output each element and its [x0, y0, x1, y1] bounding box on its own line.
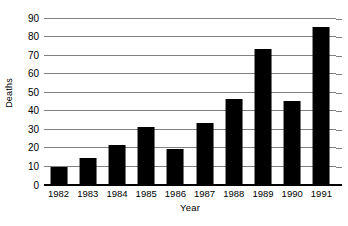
gridline-tick-stub — [336, 74, 342, 75]
bar-slot — [307, 18, 336, 184]
bar-slot — [219, 18, 248, 184]
bar-slot — [73, 18, 102, 184]
x-axis-tick-label: 1988 — [219, 187, 248, 200]
x-axis-tick-label: 1984 — [102, 187, 131, 200]
bar[interactable] — [167, 149, 184, 184]
gridline-tick-stub — [336, 37, 342, 38]
bar-slot — [248, 18, 277, 184]
bars-layer — [44, 18, 336, 184]
bar-slot — [132, 18, 161, 184]
x-axis-tick-label: 1990 — [278, 187, 307, 200]
x-axis-tick-labels: 1982198319841985198619871988198919901991 — [44, 187, 336, 201]
y-axis-tick-label: 20 — [28, 143, 39, 153]
bar-slot — [278, 18, 307, 184]
bar-slot — [161, 18, 190, 184]
gridline-tick-stub — [336, 19, 342, 20]
y-axis-tick-label: 80 — [28, 32, 39, 42]
bar[interactable] — [284, 101, 301, 184]
bar[interactable] — [79, 158, 96, 184]
gridline-tick-stub — [336, 130, 342, 131]
x-axis-tick-label: 1985 — [132, 187, 161, 200]
gridline-tick-stub — [336, 111, 342, 112]
x-axis-tick-label: 1986 — [161, 187, 190, 200]
x-axis-baseline: 0 — [44, 184, 342, 186]
gridline-tick-stub — [336, 167, 342, 168]
plot-area: 0102030405060708090 — [44, 18, 336, 184]
y-axis-tick-label: 0 — [33, 181, 39, 191]
y-axis-title-text: Deaths — [4, 78, 14, 108]
bar-chart-figure: Deaths 0102030405060708090 1982198319841… — [0, 0, 348, 226]
y-axis-tick-label: 90 — [28, 14, 39, 24]
gridline-tick-stub — [336, 56, 342, 57]
x-axis-tick-label: 1982 — [44, 187, 73, 200]
y-axis-tick-label: 30 — [28, 125, 39, 135]
bar[interactable] — [50, 167, 67, 184]
bar-slot — [102, 18, 131, 184]
y-axis-tick-label: 60 — [28, 69, 39, 79]
x-axis-title: Year — [44, 202, 336, 213]
bar[interactable] — [255, 49, 272, 184]
y-axis-title: Deaths — [0, 0, 18, 186]
y-axis-tick-label: 70 — [28, 51, 39, 61]
bar[interactable] — [225, 99, 242, 184]
bar[interactable] — [313, 27, 330, 184]
bar[interactable] — [196, 123, 213, 184]
x-axis-tick-label: 1987 — [190, 187, 219, 200]
bar-slot — [44, 18, 73, 184]
gridline-tick-stub — [336, 93, 342, 94]
gridline-tick-stub — [336, 148, 342, 149]
bar-slot — [190, 18, 219, 184]
y-axis-tick-label: 10 — [28, 162, 39, 172]
x-axis-tick-label: 1989 — [248, 187, 277, 200]
bar[interactable] — [109, 145, 126, 184]
x-axis-tick-label: 1991 — [307, 187, 336, 200]
y-axis-tick-label: 50 — [28, 88, 39, 98]
x-axis-tick-label: 1983 — [73, 187, 102, 200]
y-axis-tick-label: 40 — [28, 106, 39, 116]
bar[interactable] — [138, 127, 155, 184]
